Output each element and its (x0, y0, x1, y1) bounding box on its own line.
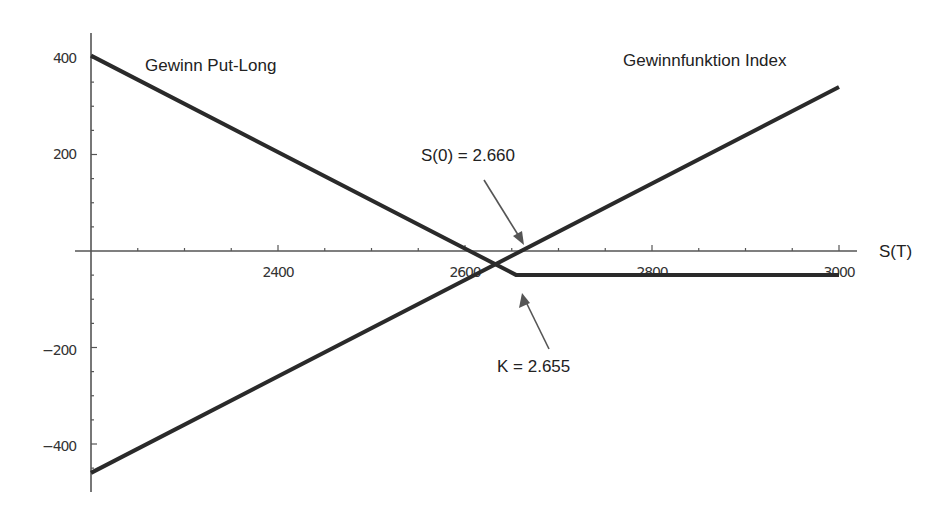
s0-arrow-icon (484, 180, 524, 245)
k-arrow-icon (519, 293, 549, 349)
index-series (91, 87, 839, 473)
y-tick-label-neg400: −400 (42, 438, 76, 454)
x-ticks (138, 245, 839, 251)
axes (75, 33, 857, 492)
y-tick-label-neg200: −200 (42, 342, 76, 358)
s0-annotation: S(0) = 2.660 (421, 146, 515, 165)
y-tick-labels: 400 200 −200 −400 (42, 50, 76, 454)
put-series-label: Gewinn Put-Long (145, 56, 276, 75)
k-annotation: K = 2.655 (497, 357, 570, 376)
x-tick-label-2400: 2400 (263, 264, 294, 280)
x-tick-label-2600: 2600 (450, 264, 481, 280)
x-axis-label: S(T) (879, 242, 912, 261)
x-tick-label-3000: 3000 (824, 264, 855, 280)
x-tick-labels: 2400 2600 2800 3000 (263, 264, 855, 280)
y-tick-label-200: 200 (53, 146, 76, 162)
put-long-series (91, 56, 839, 276)
index-series-label: Gewinnfunktion Index (623, 51, 787, 70)
x-tick-label-2800: 2800 (637, 264, 668, 280)
payoff-chart: 400 200 −200 −400 2400 2600 2800 3000 S(… (0, 0, 946, 522)
y-tick-label-400: 400 (53, 50, 76, 66)
y-ticks (91, 58, 97, 468)
